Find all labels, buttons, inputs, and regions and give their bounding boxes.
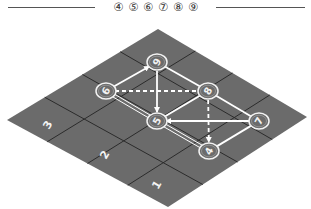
node-4: 4	[199, 143, 219, 159]
node-9: 9	[147, 54, 167, 70]
node-5: 5	[147, 113, 167, 129]
node-8: 8	[198, 83, 218, 99]
node-7: 7	[249, 113, 269, 129]
node-6: 6	[96, 83, 116, 99]
isometric-board: 321 968574	[0, 0, 311, 209]
